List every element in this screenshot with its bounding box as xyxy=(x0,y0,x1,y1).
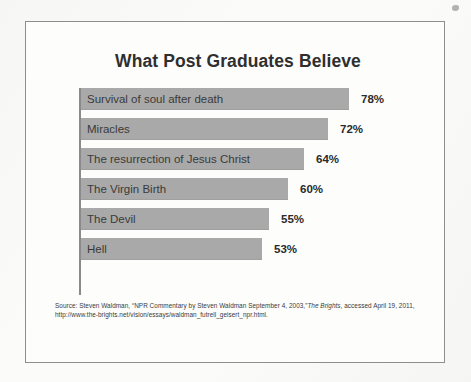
bar-row: The Virgin Birth 60% xyxy=(81,178,419,200)
bar-row: Survival of soul after death 78% xyxy=(81,88,419,110)
bar-row: The resurrection of Jesus Christ 64% xyxy=(81,148,419,170)
bar-value-label: 53% xyxy=(274,238,297,260)
bar-chart: Survival of soul after death 78% Miracle… xyxy=(79,88,419,295)
bar-category-label: The Virgin Birth xyxy=(87,178,166,200)
source-line1-suffix: , xyxy=(341,302,343,309)
bar-value-label: 55% xyxy=(281,208,304,230)
bar-category-label: The resurrection of Jesus Christ xyxy=(87,148,250,170)
bar-row: Miracles 72% xyxy=(81,118,419,140)
bar-value-label: 72% xyxy=(340,118,363,140)
bar-row: The Devil 55% xyxy=(81,208,419,230)
bar-category-label: The Devil xyxy=(87,208,136,230)
source-publication-title: The Brights xyxy=(307,302,340,309)
slide-frame: What Post Graduates Believe Survival of … xyxy=(25,21,445,363)
bar-row: Hell 53% xyxy=(81,238,419,260)
bar-value-label: 64% xyxy=(316,148,339,170)
bar-category-label: Hell xyxy=(87,238,107,260)
source-citation: Source: Steven Waldman, “NPR Commentary … xyxy=(55,301,426,319)
source-line1-text: Source: Steven Waldman, “NPR Commentary … xyxy=(55,302,307,309)
bar-category-label: Miracles xyxy=(87,118,130,140)
bar-value-label: 78% xyxy=(361,88,384,110)
bar-category-label: Survival of soul after death xyxy=(87,88,223,110)
bar-value-label: 60% xyxy=(300,178,323,200)
bar xyxy=(81,238,262,260)
page-title: What Post Graduates Believe xyxy=(26,51,444,72)
